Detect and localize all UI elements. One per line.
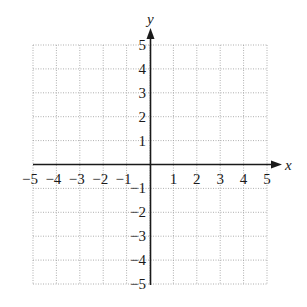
y-tick-label: 5 [139,37,147,53]
y-axis-label: y [145,11,154,27]
x-tick-label: 1 [170,171,178,187]
x-tick-label: −4 [45,171,61,187]
x-tick-label: −5 [22,171,38,187]
x-tick-label: −2 [92,171,108,187]
x-tick-label: 5 [263,171,271,187]
y-tick-label: 1 [139,133,147,149]
x-tick-label: −3 [69,171,85,187]
x-tick-label: 3 [216,171,224,187]
y-tick-label: −3 [130,228,146,244]
y-tick-label: −4 [130,252,146,268]
axes: x y [33,11,292,285]
y-tick-label: 3 [139,85,147,101]
x-tick-label: 2 [193,171,201,187]
y-tick-label: 2 [139,109,147,125]
y-tick-label: −2 [130,204,146,220]
coordinate-plane: x y −5−4−3−2−112345 −5−4−3−2−112345 [0,0,307,307]
x-tick-label: 4 [240,171,248,187]
y-tick-label: −5 [130,276,146,292]
x-axis-arrow-icon [271,161,282,169]
x-axis-label: x [284,157,292,173]
y-tick-label: 4 [139,61,147,77]
x-tick-labels: −5−4−3−2−112345 [22,171,271,187]
y-tick-label: −1 [130,180,146,196]
y-axis-arrow-icon [147,28,155,39]
